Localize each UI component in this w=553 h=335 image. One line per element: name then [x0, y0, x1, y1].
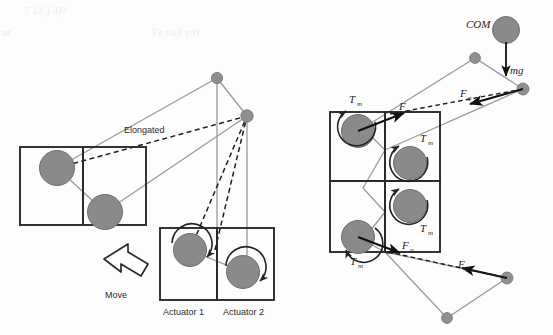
ractuator-circle-tr [394, 147, 427, 180]
move-arrow-icon [104, 244, 148, 276]
scan-artifact-ghost-text: 7 12 ) 3)? nt Fe ni(f y4) [2, 4, 199, 39]
force-g-label-mid-sub: g [410, 246, 414, 254]
com-label: COM [466, 18, 491, 30]
torque-label-bl: T [350, 255, 357, 267]
force-g-label-upper-sub: g [468, 94, 472, 102]
actuator-circle-upper-b [88, 195, 123, 230]
actuator-circle-lower-a [174, 234, 207, 267]
figure-root: 7 12 ) 3)? nt Fe ni(f y4) [0, 0, 553, 335]
ghost-line-1: 7 12 ) 3)? [24, 4, 67, 17]
actuator-circle-upper-a [40, 151, 75, 186]
rnode-lower-bottom [442, 313, 453, 324]
force-m-label-sub: m [407, 107, 412, 115]
rnode-top [470, 53, 481, 64]
force-g-label-mid: F [401, 239, 409, 251]
actuator-circle-lower-b [227, 256, 260, 289]
node-right [241, 110, 253, 122]
elongated-label: Elongated [124, 125, 165, 135]
torque-label-br-sub: m [428, 229, 433, 237]
strut-topnode-to-rightnode [217, 78, 247, 116]
node-top-left [211, 72, 222, 83]
force-g-label-lower-sub: g [466, 265, 470, 273]
torque-label-tl: T [349, 93, 356, 105]
force-g-label-upper: F [459, 87, 467, 99]
force-g-arrow-upper [470, 89, 523, 104]
ractuator-circle-br [394, 190, 427, 223]
left-panel: Elongated Move Actuator 1 Actuator 2 [20, 72, 274, 317]
rstrut-lownode-link [447, 278, 507, 318]
actuator-2-label: Actuator 2 [223, 307, 264, 317]
left-module-upper [20, 147, 146, 230]
ghost-line-3: Fe ni(f y4) [152, 26, 199, 39]
move-label: Move [105, 290, 127, 300]
torque-label-tl-sub: m [357, 100, 362, 108]
force-g-label-lower: F [457, 258, 465, 270]
left-module-lower [160, 228, 274, 300]
right-panel: COM mg [330, 17, 529, 324]
actuator-1-label: Actuator 1 [163, 307, 204, 317]
torque-label-tr: T [420, 132, 427, 144]
torque-label-br: T [420, 222, 427, 234]
torque-label-bl-sub: m [358, 262, 363, 270]
com-mass-circle [493, 17, 520, 44]
force-m-label: F [398, 100, 406, 112]
torque-label-tr-sub: m [428, 139, 433, 147]
rstrut-module-to-lownode2 [385, 252, 447, 318]
mg-label: mg [510, 64, 524, 76]
ghost-line-2: nt [2, 26, 11, 38]
right-strut-nodes [442, 53, 529, 324]
